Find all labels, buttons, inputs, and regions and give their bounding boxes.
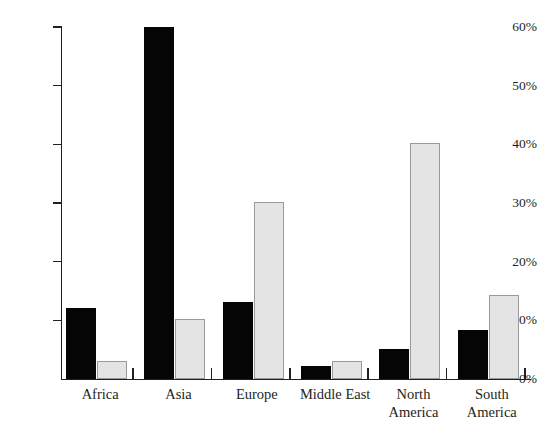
bar bbox=[254, 202, 284, 379]
x-axis-label: South America bbox=[445, 386, 539, 421]
bar bbox=[301, 366, 331, 379]
bars-layer bbox=[61, 27, 531, 379]
bar bbox=[332, 361, 362, 379]
bar bbox=[410, 143, 440, 379]
bar bbox=[379, 349, 409, 380]
bar bbox=[144, 27, 174, 379]
bar bbox=[458, 330, 488, 379]
bar bbox=[489, 295, 519, 379]
bar bbox=[223, 302, 253, 379]
bar bbox=[66, 308, 96, 379]
bar bbox=[97, 361, 127, 379]
bar bbox=[175, 319, 205, 379]
